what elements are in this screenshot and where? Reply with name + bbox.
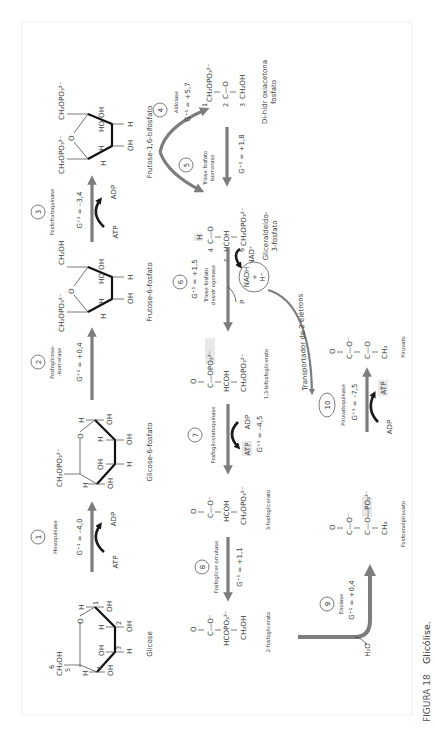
- svg-text:CH₂OH: CH₂OH: [238, 75, 247, 99]
- svg-text:1: 1: [35, 535, 43, 539]
- svg-text:Di-hidr oxiacetona: Di-hidr oxiacetona: [261, 60, 269, 124]
- svg-text:O: O: [328, 348, 337, 354]
- svg-text:HCOPO₃²⁻: HCOPO₃²⁻: [222, 610, 231, 646]
- svg-text:C—O: C—O: [221, 81, 230, 99]
- svg-text:CH₂OPO₃²⁻: CH₂OPO₃²⁻: [239, 486, 248, 525]
- svg-text:G⁺¹ = +1,5: G⁺¹ = +1,5: [191, 259, 199, 298]
- svg-text:HO: HO: [97, 121, 106, 132]
- svg-text:O: O: [76, 618, 85, 624]
- svg-text:OH: OH: [97, 107, 106, 118]
- svg-text:C—O⁻: C—O⁻: [206, 614, 215, 636]
- rotated-frame: 6 CH₂OH 5 O H 4 OH OH 3 H H 2 OH H 1: [22, 22, 432, 722]
- svg-text:ADP: ADP: [110, 512, 118, 526]
- svg-text:Glicólise.: Glicólise.: [421, 621, 432, 664]
- svg-text:CH₂OPO₃²⁻: CH₂OPO₃²⁻: [239, 353, 248, 392]
- svg-text:Gliceraldeído-: Gliceraldeído-: [262, 211, 270, 260]
- svg-text:OH: OH: [97, 645, 106, 656]
- svg-text:Aldolase: Aldolase: [173, 91, 179, 113]
- svg-text:7: 7: [192, 433, 200, 437]
- svg-text:C—O: C—O: [206, 226, 215, 244]
- svg-text:Glicose-6-fosfato: Glicose-6-fosfato: [146, 422, 154, 481]
- svg-text:H: H: [99, 314, 108, 319]
- svg-text:ATP: ATP: [244, 443, 252, 456]
- svg-text:O: O: [67, 288, 76, 294]
- svg-text:H: H: [195, 235, 204, 240]
- svg-text:5: 5: [64, 668, 72, 672]
- svg-text:G⁺¹ = +5,7: G⁺¹ = +5,7: [184, 82, 192, 121]
- svg-text:G⁺¹ = –4,5: G⁺¹ = –4,5: [256, 416, 264, 453]
- svg-text:HCOH: HCOH: [222, 371, 231, 393]
- svg-text:G⁺¹ = –4,0: G⁺¹ = –4,0: [76, 519, 84, 556]
- svg-text:OH: OH: [125, 434, 134, 445]
- svg-text:9: 9: [324, 602, 332, 606]
- figure-page: 6 CH₂OH 5 O H 4 OH OH 3 H H 2 OH H 1: [0, 0, 435, 732]
- svg-text:CH₂: CH₂: [380, 522, 389, 535]
- svg-text:FIGURA 18: FIGURA 18: [422, 674, 432, 722]
- svg-text:1: 1: [92, 601, 100, 605]
- svg-text:Fosfofrutoquinase: Fosfofrutoquinase: [49, 189, 56, 236]
- svg-text:G⁺¹ = +0,4: G⁺¹ = +0,4: [348, 580, 356, 620]
- svg-text:H: H: [77, 605, 86, 610]
- svg-text:ATP: ATP: [112, 556, 120, 569]
- svg-text:3-fosfato: 3-fosfato: [271, 220, 279, 251]
- svg-text:Fosfoglicose-: Fosfoglicose-: [49, 345, 56, 379]
- svg-text:C—O⁻: C—O⁻: [206, 496, 215, 518]
- svg-text:H: H: [96, 437, 105, 442]
- svg-text:OH: OH: [106, 478, 115, 489]
- svg-text:C—O: C—O: [363, 341, 372, 359]
- svg-text:H₂O: H₂O: [364, 643, 372, 657]
- svg-text:H: H: [97, 146, 106, 151]
- svg-text:H: H: [99, 161, 108, 166]
- svg-text:2: 2: [115, 621, 123, 625]
- svg-text:OH: OH: [97, 259, 106, 270]
- svg-text:Fosfoenolpiruvato: Fosfoenolpiruvato: [400, 501, 407, 547]
- svg-text:ADP: ADP: [244, 415, 252, 429]
- svg-text:H: H: [126, 275, 135, 280]
- svg-text:Fosfoglicer omutase: Fosfoglicer omutase: [213, 541, 220, 593]
- svg-text:Frutose-1,6-bifosfato: Frutose-1,6-bifosfato: [146, 106, 154, 179]
- svg-text:Enolase: Enolase: [338, 594, 344, 614]
- svg-text:CH₂OPO₃²⁻: CH₂OPO₃²⁻: [205, 63, 214, 102]
- svg-text:3: 3: [115, 646, 123, 650]
- svg-text:G⁺¹ = –7,5: G⁺¹ = –7,5: [351, 384, 359, 421]
- svg-text:O: O: [189, 626, 198, 632]
- figure-caption: FIGURA 18 Glicólise.: [421, 621, 432, 722]
- svg-text:CH₂OH: CH₂OH: [55, 652, 64, 676]
- svg-text:NADH: NADH: [243, 267, 251, 288]
- svg-text:Fosfogliceratoquinase: Fosfogliceratoquinase: [210, 407, 217, 464]
- svg-text:CH₂OPO₃²⁻: CH₂OPO₃²⁻: [57, 81, 66, 120]
- svg-text:isomerase: isomerase: [209, 155, 215, 182]
- svg-text:CH₂OH: CH₂OH: [239, 616, 248, 640]
- svg-text:O: O: [328, 524, 337, 530]
- svg-text:3-fosfoglicerato: 3-fosfoglicerato: [265, 490, 272, 531]
- compound-name-glicose: Glicose: [146, 631, 154, 656]
- svg-text:ATP: ATP: [112, 226, 120, 239]
- svg-text:CH₃: CH₃: [380, 346, 389, 359]
- svg-text:OH: OH: [126, 140, 135, 151]
- svg-text:H: H: [77, 418, 86, 423]
- svg-text:Triose fosfato: Triose fosfato: [202, 151, 208, 187]
- svg-text:G⁺¹ = –3,4: G⁺¹ = –3,4: [76, 191, 84, 228]
- svg-text:desidr ogenase: desidr ogenase: [210, 265, 217, 305]
- svg-text:O: O: [67, 135, 76, 141]
- svg-text:Piruvato: Piruvato: [400, 336, 406, 357]
- svg-text:Triose fosfato: Triose fosfato: [203, 268, 209, 304]
- svg-text:H⁺: H⁺: [259, 272, 267, 281]
- glycolysis-diagram: 6 CH₂OH 5 O H 4 OH OH 3 H H 2 OH H 1: [0, 0, 435, 732]
- svg-text:CH₂OPO₃²⁻: CH₂OPO₃²⁻: [239, 207, 248, 246]
- svg-text:4: 4: [207, 248, 215, 252]
- svg-text:HCOH: HCOH: [222, 501, 231, 523]
- svg-text:ADP: ADP: [110, 185, 118, 199]
- svg-text:C—OPO₃²⁻: C—OPO₃²⁻: [206, 350, 215, 388]
- svg-text:3: 3: [35, 210, 43, 214]
- svg-text:O: O: [76, 433, 85, 439]
- svg-text:10: 10: [324, 401, 332, 410]
- svg-text:OH: OH: [105, 601, 114, 612]
- svg-text:C—O⁻: C—O⁻: [345, 513, 354, 535]
- svg-text:OH: OH: [125, 621, 134, 632]
- svg-text:OH: OH: [96, 459, 105, 470]
- svg-text:CH₂OH: CH₂OH: [57, 241, 66, 265]
- svg-text:ATP: ATP: [380, 382, 388, 395]
- svg-text:G⁺¹ = +1,8: G⁺¹ = +1,8: [238, 134, 246, 173]
- svg-text:OH: OH: [126, 293, 135, 304]
